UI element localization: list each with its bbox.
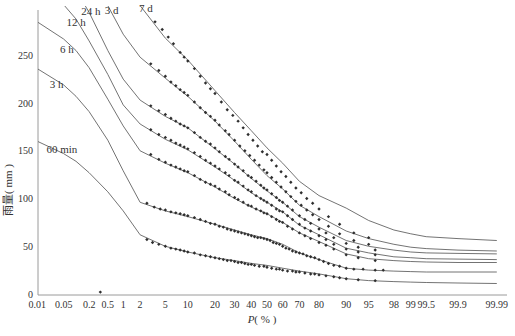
data-point-24-h	[149, 104, 152, 107]
data-point-12-h	[224, 171, 227, 174]
data-point-12-h	[178, 143, 181, 146]
data-point-7-d	[270, 159, 273, 162]
data-point-60-min	[357, 278, 360, 281]
data-point-12-h	[250, 190, 253, 193]
data-point-24-h	[373, 248, 376, 251]
data-point-24-h	[209, 142, 212, 145]
data-point-3-h	[209, 222, 212, 225]
data-point-3-d	[338, 232, 341, 235]
curve-label-3-d: 3 d	[105, 4, 119, 16]
data-point-6-h	[265, 212, 268, 215]
data-point-60-min	[182, 249, 185, 252]
x-tick-label: 80	[314, 299, 324, 310]
data-point-60-min	[174, 247, 177, 250]
x-tick-label: 0.2	[83, 299, 96, 310]
data-point-60-min	[164, 245, 167, 248]
x-tick-label: 99.5	[417, 299, 435, 310]
y-tick-label: 200	[18, 98, 33, 109]
data-point-60-min	[193, 251, 196, 254]
y-tick-label: 150	[18, 145, 33, 156]
data-point-60-min	[199, 253, 202, 256]
curve-label-3-h: 3 h	[50, 78, 64, 90]
data-point-3-d	[327, 224, 330, 227]
data-point-7-d	[327, 215, 330, 218]
y-tick-label: 50	[23, 241, 33, 252]
x-tick-label: 30	[230, 299, 240, 310]
x-tick-label: 99.9	[449, 299, 467, 310]
data-point-3-d	[243, 149, 246, 152]
data-point-24-h	[357, 246, 360, 249]
x-tick-label: 5	[163, 299, 168, 310]
curve-6-h	[37, 22, 497, 263]
data-point-3-d	[224, 129, 227, 132]
data-point-7-d	[275, 164, 278, 167]
data-point-24-h	[265, 188, 268, 191]
data-point-3-d	[238, 144, 241, 147]
data-point-7-d	[209, 87, 212, 90]
curve-label-12-h: 12 h	[66, 16, 86, 28]
x-tick-label: 10	[183, 299, 193, 310]
data-point-60-min	[373, 279, 376, 282]
data-point-24-h	[344, 242, 347, 245]
data-point-3-h	[309, 255, 312, 258]
y-tick-label: 250	[18, 50, 33, 61]
data-point-7-d	[317, 207, 320, 210]
data-point-60-min	[286, 269, 289, 272]
data-point-3-h	[382, 268, 385, 271]
y-tick-label: 100	[18, 193, 33, 204]
x-tick-label: 0.05	[55, 299, 73, 310]
data-point-3-h	[301, 252, 304, 255]
data-point-60-min	[270, 267, 273, 270]
data-point-3-d	[299, 203, 302, 206]
data-point-60-min	[229, 259, 232, 262]
data-point-7-d	[161, 28, 164, 31]
data-point-3-h	[338, 265, 341, 268]
data-point-60-min	[344, 277, 347, 280]
data-point-12-h	[275, 207, 278, 210]
data-point-60-min	[178, 248, 181, 251]
data-point-7-d	[338, 223, 341, 226]
data-point-7-d	[311, 202, 314, 205]
x-tick-label: 2	[138, 299, 143, 310]
data-point-60-min	[209, 255, 212, 258]
data-point-60-min	[204, 254, 207, 257]
data-point-7-d	[265, 153, 268, 156]
x-axis-title: P( % )	[247, 313, 277, 326]
curve-label-6-h: 6 h	[60, 43, 74, 55]
data-point-24-h	[324, 231, 327, 234]
data-point-7-d	[226, 108, 229, 111]
curve-12-h	[37, 0, 497, 260]
data-point-60-min	[265, 266, 268, 269]
data-point-3-h	[317, 258, 320, 261]
data-point-3-h	[153, 205, 156, 208]
data-point-60-min	[186, 250, 189, 253]
data-point-24-h	[213, 146, 216, 149]
data-point-7-d	[284, 175, 287, 178]
x-tick-label: 20	[210, 299, 220, 310]
x-tick-label: 90	[341, 299, 351, 310]
data-point-3-h	[352, 267, 355, 270]
stray-data-point	[99, 290, 102, 293]
curve-label-7-d: 7 d	[139, 2, 153, 14]
data-point-3-h	[204, 220, 207, 223]
x-tick-label: 50	[262, 299, 272, 310]
y-tick-label: 0	[28, 289, 33, 300]
x-tick-label: 40	[246, 299, 256, 310]
data-point-3-d	[317, 218, 320, 221]
data-point-3-h	[373, 268, 376, 271]
x-tick-label: 99	[406, 299, 416, 310]
data-point-3-d	[275, 181, 278, 184]
data-point-24-h	[182, 124, 185, 127]
data-point-7-d	[305, 197, 308, 200]
data-point-3-d	[174, 84, 177, 87]
x-tick-label: 99.99	[486, 299, 509, 310]
chart-canvas: 0501001502002500.010.050.20.512510203040…	[0, 0, 515, 336]
data-point-60-min	[218, 257, 221, 260]
data-point-7-d	[186, 59, 189, 62]
data-point-12-h	[199, 155, 202, 158]
data-point-24-h	[254, 180, 257, 183]
data-point-6-h	[254, 207, 257, 210]
x-tick-label: 70	[294, 299, 304, 310]
data-point-7-d	[289, 181, 292, 184]
curve-3-h	[37, 69, 497, 272]
